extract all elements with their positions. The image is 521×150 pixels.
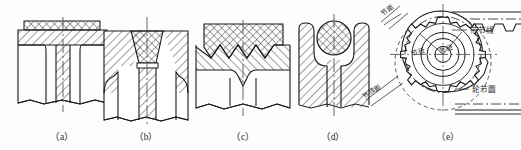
subfigure-a-gap-left bbox=[18, 45, 46, 103]
caption-d: （d） bbox=[321, 131, 346, 142]
subfigure-a-facing-strip bbox=[24, 21, 100, 30]
subfigure-b-insert-base bbox=[137, 63, 158, 68]
label-wheel-pitch-circle: 轮节圆 bbox=[472, 84, 496, 94]
belt-bottom bbox=[455, 104, 521, 114]
subfigure-d bbox=[299, 14, 369, 116]
subfigure-b-break-line bbox=[104, 117, 188, 121]
subfigure-a-body-hatch bbox=[18, 30, 107, 103]
caption-a: （a） bbox=[50, 131, 74, 142]
subfigure-e: 带节线 轮节圆 节距 节顶距 节径 外径 bbox=[361, 3, 521, 114]
caption-c: （c） bbox=[231, 131, 255, 142]
subfigure-c bbox=[196, 20, 290, 116]
subfigure-a-break-line bbox=[18, 100, 107, 104]
label-pitch-top: 节距 bbox=[379, 3, 395, 18]
technical-figure: 带节线 轮节圆 节距 节顶距 节径 外径 （a） （b） （c） （d） （e） bbox=[0, 0, 521, 150]
label-belt-pitch-line: 带节线 bbox=[470, 25, 494, 35]
figure-canvas: 带节线 轮节圆 节距 节顶距 节径 外径 （a） （b） （c） （d） （e） bbox=[0, 0, 521, 150]
subfigure-a-gap-right bbox=[80, 45, 107, 103]
caption-e: （e） bbox=[436, 131, 460, 142]
subfigure-a bbox=[18, 17, 107, 112]
subfigure-b bbox=[104, 17, 188, 126]
caption-b: （b） bbox=[134, 131, 159, 142]
